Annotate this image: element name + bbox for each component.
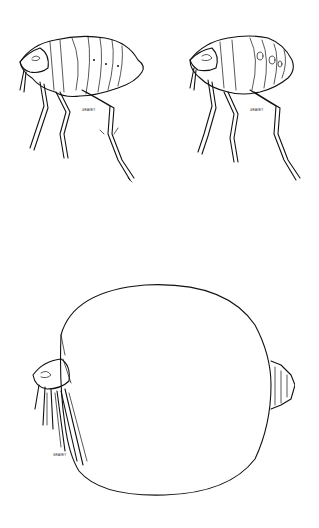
artist-signature: GRAVEY	[82, 108, 95, 112]
flea-drawing	[180, 30, 315, 190]
artist-signature: GRAVEY	[53, 453, 66, 457]
flea-drawing	[25, 275, 295, 505]
flea-illustration-female: GRAVEY	[180, 30, 315, 190]
flea-illustration-male: GRAVEY	[10, 30, 160, 190]
flea-illustration-engorged: GRAVEY	[25, 275, 295, 505]
artist-signature: GRAVEY	[250, 108, 263, 112]
